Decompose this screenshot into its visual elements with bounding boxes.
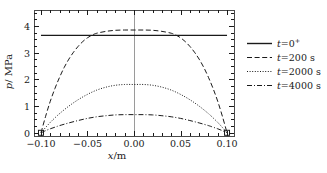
chart-legend: t=0+t=200 st=2000 st=4000 s	[247, 36, 327, 92]
x-tick-label: 0.10	[216, 138, 237, 149]
legend-item[interactable]: t=200 s	[247, 50, 327, 64]
y-axis-label: p/ MPa	[3, 42, 14, 102]
x-tick-label: −0.10	[26, 138, 55, 149]
legend-item[interactable]: t=4000 s	[247, 78, 327, 92]
pressure-distribution-chart: x/m p/ MPa −0.10−0.050.000.050.1001234 t…	[0, 0, 327, 173]
y-tick-label: 1	[14, 101, 30, 112]
y-tick-label: 4	[14, 21, 30, 32]
x-tick-label: 0.05	[170, 138, 191, 149]
x-tick-label: 0.00	[123, 138, 144, 149]
y-axis-label-unit: / MPa	[3, 54, 14, 83]
y-tick-label: 2	[14, 74, 30, 85]
y-axis-label-symbol: p	[3, 83, 14, 89]
legend-line-sample-dashdot	[247, 81, 272, 90]
legend-label: t=0+	[277, 38, 300, 49]
legend-label: t=200 s	[277, 52, 315, 63]
legend-line-sample-dotted	[247, 67, 272, 76]
legend-item[interactable]: t=2000 s	[247, 64, 327, 78]
legend-item[interactable]: t=0+	[247, 36, 327, 50]
x-tick-label: −0.05	[73, 138, 102, 149]
y-tick-label: 3	[14, 47, 30, 58]
legend-line-sample-solid	[247, 39, 272, 48]
y-tick-label: 0	[14, 127, 30, 138]
x-axis-label: x/m	[0, 150, 234, 161]
legend-label: t=2000 s	[277, 66, 321, 77]
legend-label: t=4000 s	[277, 80, 321, 91]
x-axis-label-unit: /m	[113, 150, 126, 161]
legend-line-sample-dashed	[247, 53, 272, 62]
